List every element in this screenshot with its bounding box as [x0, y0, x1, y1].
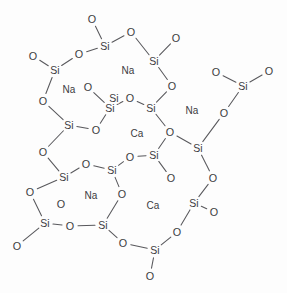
silicate-structure-diagram: OSiOOSiOOSiOOSiOSiOOSiOSiOSiOOOSiOOSiOOS…: [0, 0, 287, 293]
bond-o3-si2: [136, 38, 149, 54]
atom-label-o2: O: [75, 48, 83, 60]
bond-o17-si10: [161, 237, 171, 245]
atom-label-o26: O: [126, 151, 134, 163]
bond-si2-o5: [159, 67, 168, 79]
bond-si8-o13: [223, 76, 236, 83]
atom-label-si9: Si: [189, 197, 198, 209]
structure-canvas: OSiOOSiOOSiOOSiOSiOOSiOSiOSiOOOSiOOSiOOS…: [0, 0, 287, 293]
atom-label-si7: Si: [193, 142, 202, 154]
bond-si15-o27: [159, 161, 166, 171]
bond-si11-o20: [78, 225, 95, 226]
atom-label-o8: O: [92, 124, 100, 136]
ion-label-na1: Na: [122, 65, 135, 76]
bond-si5-o8: [100, 115, 105, 124]
atom-label-o11: O: [166, 126, 174, 138]
bond-si1-o3: [112, 36, 124, 42]
atom-label-si14: Si: [107, 164, 116, 176]
atom-label-o12: O: [220, 107, 228, 119]
atom-label-o13: O: [212, 66, 220, 78]
atom-label-si8: Si: [238, 80, 247, 92]
bond-o10-si6: [137, 101, 144, 104]
bond-layer: [23, 26, 262, 268]
ion-label-ca1: Ca: [131, 128, 144, 139]
bond-si8-o14: [250, 75, 262, 82]
bond-o25-si11: [107, 201, 118, 218]
bond-o7-si4: [49, 106, 63, 119]
atom-label-si10: Si: [150, 244, 159, 256]
bond-si13-o23: [48, 158, 59, 171]
bond-o20-si12: [53, 224, 62, 225]
atom-label-si3: Si: [50, 64, 59, 76]
bond-si15-o11: [159, 139, 166, 149]
bond-si3-o6: [40, 60, 49, 65]
atom-label-o25: O: [118, 188, 126, 200]
atom-label-si6: Si: [146, 102, 155, 114]
atom-label-si4: Si: [64, 119, 73, 131]
bond-o9-si5: [94, 93, 104, 103]
bond-si12-o22: [33, 199, 41, 216]
bond-o11-si7: [177, 136, 191, 144]
bond-si3-o7: [46, 77, 52, 93]
bond-si14-o26: [118, 162, 123, 166]
bond-o1-si1: [95, 26, 101, 39]
atom-label-o15: O: [209, 172, 217, 184]
atom-label-o27: O: [167, 172, 175, 184]
ion-label-na3: Na: [186, 105, 199, 116]
atom-label-si13: Si: [59, 171, 68, 183]
atom-label-o23: O: [39, 146, 47, 158]
bond-si10-o18: [152, 258, 154, 268]
atom-label-o21: O: [13, 240, 21, 252]
bond-si4-o8: [77, 126, 88, 128]
bond-si9-o16: [201, 206, 206, 208]
ion-label-na2: Na: [63, 84, 76, 95]
bond-o23-si4: [49, 131, 64, 146]
bond-o19-si11: [109, 230, 117, 237]
bond-si14-o25: [115, 177, 119, 186]
atom-label-si2: Si: [149, 55, 158, 67]
bond-si12-o21: [23, 228, 39, 241]
atom-label-o7: O: [39, 95, 47, 107]
atom-label-o20: O: [66, 220, 74, 232]
atom-label-o6: O: [29, 50, 37, 62]
atom-label-o5: O: [168, 80, 176, 92]
bond-si2-o4: [160, 44, 171, 55]
bond-o2-si3: [62, 58, 73, 65]
atom-label-o16: O: [210, 206, 218, 218]
atom-label-o19: O: [119, 237, 127, 249]
bond-si13-o24: [71, 168, 79, 173]
atom-label-o10: O: [126, 92, 134, 104]
atom-label-si12: Si: [40, 217, 49, 229]
atom-label-o17: O: [173, 226, 181, 238]
atom-label-si16: Si: [109, 92, 118, 104]
bond-o26-si15: [138, 156, 146, 157]
atom-label-o18: O: [146, 270, 154, 282]
bond-si1-o2: [87, 48, 98, 51]
bond-si10-o19: [131, 245, 147, 249]
bond-si7-o15: [202, 155, 210, 171]
bond-si7-o12: [203, 119, 219, 141]
atom-label-o14: O: [265, 65, 273, 77]
bond-o12-si8: [229, 93, 239, 107]
ion-label-na4: Na: [85, 190, 98, 201]
atom-label-o9: O: [84, 81, 92, 93]
bond-o15-si9: [199, 184, 208, 196]
bond-si6-o11: [156, 114, 165, 125]
atom-label-o28: O: [57, 198, 65, 210]
bond-o24-si14: [94, 166, 104, 168]
atom-label-o1: O: [88, 13, 96, 25]
bond-o5-si6: [157, 92, 167, 102]
bond-o22-si13: [37, 180, 56, 189]
bond-si9-o17: [181, 210, 190, 225]
atom-label-si11: Si: [98, 219, 107, 231]
atom-layer: OSiOOSiOOSiOOSiOSiOOSiOSiOSiOOOSiOOSiOOS…: [13, 13, 273, 282]
atom-label-si15: Si: [149, 149, 158, 161]
atom-label-o4: O: [172, 32, 180, 44]
atom-label-o22: O: [26, 186, 34, 198]
atom-label-o3: O: [127, 26, 135, 38]
atom-label-o24: O: [82, 158, 90, 170]
atom-label-si1: Si: [100, 40, 109, 52]
ion-label-ca2: Ca: [147, 200, 160, 211]
